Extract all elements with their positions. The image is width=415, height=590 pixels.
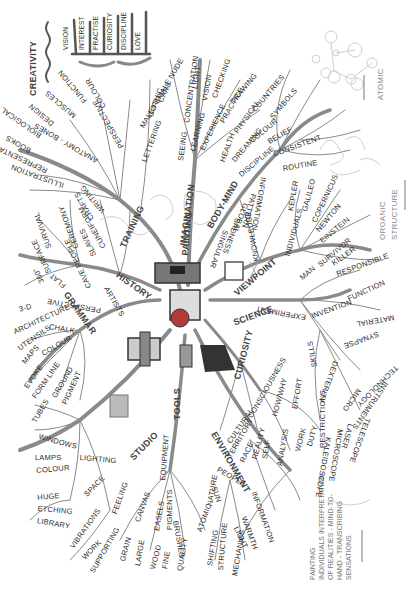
organic-label: ORGANIC — [378, 201, 387, 240]
mind-map-canvas: CREATIVITY VISION INTEREST PRACTISE CURI… — [0, 0, 415, 590]
atomic-label: ATOMIC — [376, 68, 385, 100]
definition-line-4: SENSATIONS. — [344, 474, 353, 580]
legend-curiosity: CURIOSITY — [106, 13, 113, 50]
branch-tools: TOOLS — [172, 388, 182, 420]
creativity-label: CREATIVITY — [28, 41, 38, 96]
definition-line-3: HAND - TRANSCRIBING — [335, 474, 344, 580]
legend-discipline: DISCIPLINE — [120, 12, 127, 50]
legend-practise: PRACTISE — [92, 16, 99, 50]
label-lamps: LAMPS — [35, 453, 61, 462]
label-restrictions: RESTRICTIONS — [318, 390, 327, 448]
legend-love: LOVE — [134, 32, 141, 50]
structure-label: STRUCTURE — [390, 189, 399, 240]
legend-vision: VISION — [62, 27, 69, 50]
definition-line-2: OF REALITIES - MIND-TO- — [326, 474, 335, 580]
legend-interest: INTEREST — [78, 16, 85, 50]
